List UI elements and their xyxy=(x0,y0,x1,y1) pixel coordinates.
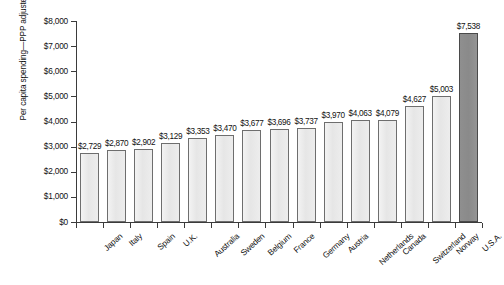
bar-netherlands xyxy=(351,120,370,222)
x-tick-mark xyxy=(238,223,239,228)
category-label-sweden: Sweden xyxy=(238,231,266,258)
category-label-uk: U.K. xyxy=(181,231,199,249)
category-label-australia: Australia xyxy=(212,231,241,259)
y-tick-label: $4,000 xyxy=(28,116,68,126)
bar-spain xyxy=(134,149,153,222)
y-tick-label: $5,000 xyxy=(28,91,68,101)
bar-norway xyxy=(432,96,451,222)
bar-usa xyxy=(459,33,478,222)
x-tick-mark xyxy=(401,223,402,228)
x-tick-mark xyxy=(265,223,266,228)
bar-germany xyxy=(297,128,316,222)
x-tick-mark xyxy=(374,223,375,228)
x-tick-mark xyxy=(293,223,294,228)
category-label-japan: Japan xyxy=(101,231,124,253)
y-tick-label: $2,000 xyxy=(28,166,68,176)
x-tick-mark xyxy=(455,223,456,228)
bar-canada xyxy=(378,120,397,222)
x-tick-mark xyxy=(76,223,77,228)
bar-value-label: $4,079 xyxy=(367,109,407,118)
y-tick-mark xyxy=(71,21,77,22)
x-tick-mark xyxy=(103,223,104,228)
bar-value-label: $5,003 xyxy=(421,85,461,94)
y-tick-label: $0 xyxy=(28,217,68,227)
y-tick-label: $3,000 xyxy=(28,141,68,151)
bar-uk xyxy=(161,143,180,222)
y-tick-mark xyxy=(71,197,77,198)
category-label-usa: U.S.A. xyxy=(480,231,504,254)
category-label-belgium: Belgium xyxy=(265,231,293,258)
x-tick-mark xyxy=(482,223,483,228)
y-tick-mark xyxy=(71,46,77,47)
x-tick-mark xyxy=(184,223,185,228)
x-tick-mark xyxy=(347,223,348,228)
bar-switzerland xyxy=(405,106,424,222)
bar-sweden xyxy=(215,135,234,222)
x-tick-mark xyxy=(428,223,429,228)
x-axis-line xyxy=(76,222,482,223)
x-tick-mark xyxy=(211,223,212,228)
bar-australia xyxy=(188,138,207,222)
category-label-spain: Spain xyxy=(155,231,177,252)
x-tick-mark xyxy=(320,223,321,228)
bar-italy xyxy=(107,150,126,222)
y-tick-label: $8,000 xyxy=(28,16,68,26)
x-tick-mark xyxy=(157,223,158,228)
bar-belgium xyxy=(242,130,261,222)
x-tick-mark xyxy=(130,223,131,228)
bar-value-label: $7,538 xyxy=(448,22,488,31)
y-tick-mark xyxy=(71,172,77,173)
bar-value-label: $4,627 xyxy=(394,95,434,104)
category-label-france: France xyxy=(291,231,316,255)
y-tick-mark xyxy=(71,122,77,123)
bar-austria xyxy=(324,122,343,222)
y-tick-label: $1,000 xyxy=(28,191,68,201)
bar-france xyxy=(270,129,289,222)
category-label-italy: Italy xyxy=(126,231,143,248)
bar-japan xyxy=(80,153,99,222)
y-tick-label: $6,000 xyxy=(28,66,68,76)
y-tick-mark xyxy=(71,96,77,97)
y-tick-mark xyxy=(71,71,77,72)
y-tick-label: $7,000 xyxy=(28,41,68,51)
y-axis-title: Per capita spending—PPP adjusted xyxy=(18,0,28,165)
